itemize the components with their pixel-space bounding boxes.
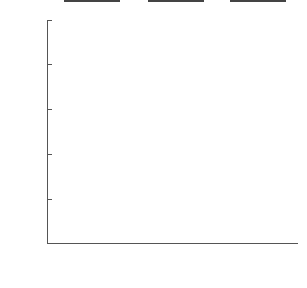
bar-signaled-shock [148, 0, 204, 2]
bar-unsignaled-shock [230, 0, 286, 2]
bar-no-shock [64, 0, 120, 2]
y-tick-10 [47, 20, 52, 21]
y-axis-line [47, 20, 48, 244]
x-axis-line [47, 243, 298, 244]
y-tick-2 [47, 199, 52, 200]
y-tick-6 [47, 109, 52, 110]
y-axis-label [10, 0, 26, 132]
y-tick-4 [47, 154, 52, 155]
y-tick-8 [47, 64, 52, 65]
